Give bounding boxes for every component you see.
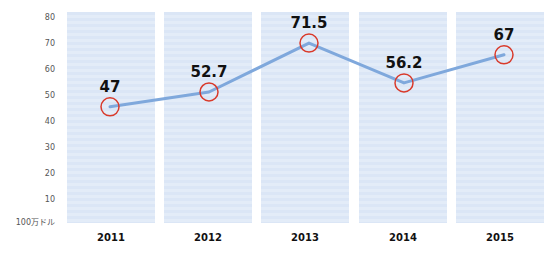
- x-label-2015: 2015: [456, 232, 544, 243]
- value-label-2015: 67: [464, 26, 544, 44]
- value-label-2012: 52.7: [169, 63, 249, 81]
- x-label-2012: 2012: [164, 232, 252, 243]
- x-label-2014: 2014: [359, 232, 447, 243]
- x-label-2013: 2013: [261, 232, 349, 243]
- markers: [101, 34, 513, 116]
- value-label-2014: 56.2: [364, 54, 444, 72]
- value-label-2011: 47: [70, 78, 150, 96]
- value-label-2013: 71.5: [269, 14, 349, 32]
- x-label-2011: 2011: [67, 232, 155, 243]
